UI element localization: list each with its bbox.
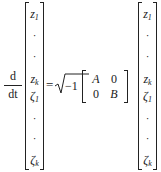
vector-entry: zk xyxy=(138,72,157,86)
vector-entry: ζk xyxy=(25,153,44,167)
entry-subscript: 1 xyxy=(148,95,152,104)
matrix-cell-A: A xyxy=(88,72,104,86)
entry-subscript: k xyxy=(148,159,152,168)
derivative-numerator: d xyxy=(4,70,22,83)
entry-subscript: k xyxy=(35,159,39,168)
ellipsis-dot: · xyxy=(25,111,44,125)
matrix-left-bracket xyxy=(82,70,86,103)
vector-entry: z1 xyxy=(138,7,157,21)
ellipsis-dot: · xyxy=(138,111,157,125)
ellipsis-dot: · xyxy=(138,131,157,145)
entry-subscript: k xyxy=(148,78,152,87)
entry-base: · xyxy=(146,29,150,41)
entry-base: · xyxy=(146,50,150,62)
entry-base: · xyxy=(33,29,37,41)
matrix-cell-zero: 0 xyxy=(106,72,122,86)
matrix-cell-zero: 0 xyxy=(88,87,104,101)
entry-base: · xyxy=(146,112,150,124)
right-column-vector: z1··zkζ1··ζk xyxy=(138,3,157,169)
entry-subscript: 1 xyxy=(35,95,39,104)
entry-base: · xyxy=(33,50,37,62)
vector-entry: ζ1 xyxy=(138,89,157,103)
ellipsis-dot: · xyxy=(25,49,44,63)
left-column-vector: z1··zkζ1··ζk xyxy=(25,3,44,169)
ellipsis-dot: · xyxy=(138,28,157,42)
entry-subscript: k xyxy=(35,78,39,87)
vector-entry: zk xyxy=(25,72,44,86)
vector-entry: z1 xyxy=(25,7,44,21)
entry-base: · xyxy=(146,132,150,144)
vector-entry: ζk xyxy=(138,153,157,167)
time-derivative-operator: d dt xyxy=(4,70,22,101)
ellipsis-dot: · xyxy=(25,28,44,42)
derivative-denominator: dt xyxy=(4,88,22,101)
matrix-right-bracket xyxy=(124,70,128,103)
equals-sign: = xyxy=(46,78,53,92)
radicand: −1 xyxy=(65,79,78,93)
entry-base: · xyxy=(33,112,37,124)
fraction-bar xyxy=(4,85,22,86)
vector-entry: ζ1 xyxy=(25,89,44,103)
entry-subscript: 1 xyxy=(35,13,39,22)
ellipsis-dot: · xyxy=(25,131,44,145)
matrix-cell-B: B xyxy=(106,87,122,101)
entry-base: · xyxy=(33,132,37,144)
block-diagonal-matrix: A 0 0 B xyxy=(82,70,128,103)
ellipsis-dot: · xyxy=(138,49,157,63)
entry-subscript: 1 xyxy=(148,13,152,22)
